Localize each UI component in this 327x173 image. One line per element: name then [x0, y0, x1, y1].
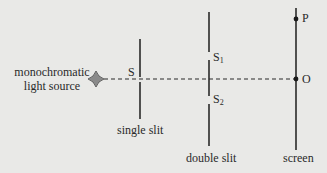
slit1-letter: S: [213, 50, 220, 64]
slit1-subscript: 1: [220, 56, 224, 65]
double-slit-label: double slit: [186, 151, 236, 165]
point-p-dot: [294, 17, 299, 22]
single-slit-label: single slit: [117, 123, 163, 137]
point-o-label: O: [302, 72, 311, 86]
point-p-label: P: [302, 11, 309, 25]
slit1-label: S1: [213, 50, 224, 64]
source-label-line2: light source: [12, 79, 92, 93]
screen-label: screen: [283, 151, 314, 165]
source-label-line1: monochromatic: [12, 65, 92, 79]
slit2-letter: S: [213, 92, 220, 106]
single-slit-point-label: S: [128, 65, 135, 79]
slit2-label: S2: [213, 92, 224, 106]
point-o-dot: [294, 77, 299, 82]
source-label: monochromatic light source: [12, 65, 92, 93]
slit2-subscript: 2: [220, 98, 224, 107]
